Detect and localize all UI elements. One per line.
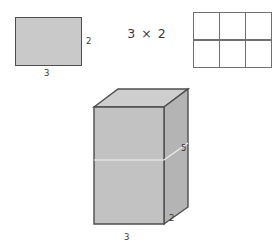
grid-cell — [220, 13, 245, 39]
flat-rectangle-height-label: 2 — [86, 37, 92, 46]
flat-rectangle-width-label: 3 — [44, 69, 50, 78]
prism-slice-line — [94, 143, 188, 160]
multiplication-expression: 3 × 2 — [124, 28, 170, 41]
prism-width-label: 3 — [124, 233, 130, 242]
grid-cell — [194, 13, 219, 39]
prism-depth-label: 2 — [169, 214, 175, 223]
flat-rectangle-shape — [15, 17, 82, 66]
grid-cell — [246, 13, 271, 39]
prism-top-face — [94, 89, 188, 107]
prism-height-label: 5 — [181, 144, 187, 153]
unit-square-grid — [193, 12, 272, 68]
grid-cell — [194, 41, 219, 67]
diagram-canvas: 2 3 3 × 2 5 2 3 — [0, 0, 280, 251]
grid-cell — [220, 41, 245, 67]
prism-side-face — [164, 89, 188, 224]
prism-front-face — [94, 107, 164, 224]
grid-cell — [246, 41, 271, 67]
